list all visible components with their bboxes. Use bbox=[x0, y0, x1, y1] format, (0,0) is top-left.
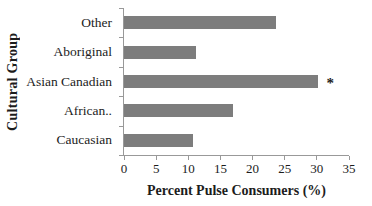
category-label: African.. bbox=[0, 96, 118, 125]
x-axis-tick-label: 0 bbox=[121, 161, 128, 177]
x-axis-tick-label: 35 bbox=[343, 161, 356, 177]
bar bbox=[124, 46, 196, 59]
category-labels: OtherAboriginalAsian CanadianAfrican..Ca… bbox=[0, 8, 118, 155]
category-label: Other bbox=[0, 8, 118, 37]
bar bbox=[124, 75, 318, 88]
x-axis-tick-label: 5 bbox=[153, 161, 160, 177]
x-axis-tick bbox=[156, 156, 157, 160]
category-label: Asian Canadian bbox=[0, 67, 118, 96]
bar-chart-figure: Cultural Group OtherAboriginalAsian Cana… bbox=[0, 0, 372, 206]
x-axis-tick-label: 15 bbox=[214, 161, 227, 177]
x-axis-tick bbox=[284, 156, 285, 160]
x-axis-tick bbox=[188, 156, 189, 160]
plot-area: *05101520253035 bbox=[124, 8, 349, 155]
category-label: Caucasian bbox=[0, 126, 118, 155]
x-axis-tick bbox=[349, 156, 350, 160]
bar bbox=[124, 104, 233, 117]
x-axis-tick bbox=[124, 156, 125, 160]
x-axis-tick-label: 10 bbox=[182, 161, 195, 177]
x-axis-tick bbox=[252, 156, 253, 160]
x-axis-tick-label: 25 bbox=[278, 161, 291, 177]
category-label: Aboriginal bbox=[0, 37, 118, 66]
x-axis-tick bbox=[316, 156, 317, 160]
bar bbox=[124, 134, 193, 147]
x-axis-title: Percent Pulse Consumers (%) bbox=[124, 183, 349, 199]
x-axis-tick bbox=[220, 156, 221, 160]
significance-asterisk: * bbox=[327, 76, 335, 91]
x-axis-tick-label: 20 bbox=[246, 161, 259, 177]
x-axis-line bbox=[123, 155, 349, 156]
y-axis-tick bbox=[119, 67, 123, 68]
y-axis-tick bbox=[119, 37, 123, 38]
y-axis-tick bbox=[119, 96, 123, 97]
y-axis-tick bbox=[119, 8, 123, 9]
y-axis-tick bbox=[119, 155, 123, 156]
y-axis-tick bbox=[119, 126, 123, 127]
x-axis-tick-label: 30 bbox=[310, 161, 323, 177]
bar bbox=[124, 16, 276, 29]
